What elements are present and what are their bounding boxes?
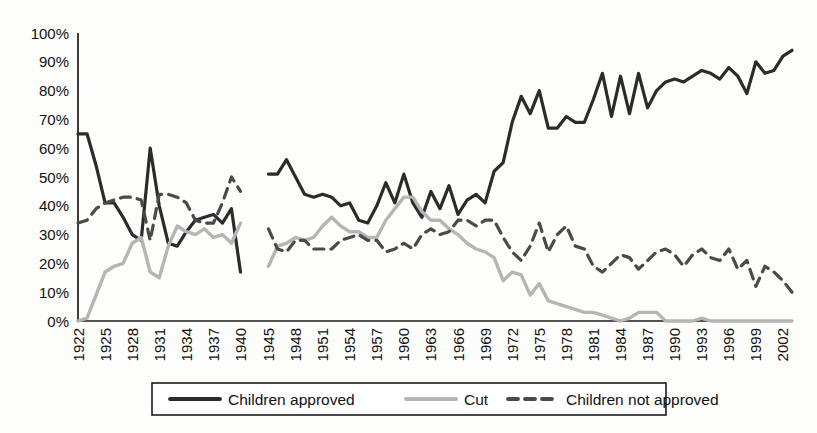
- y-tick-label: 30%: [39, 226, 69, 243]
- y-tick-label: 80%: [39, 82, 69, 99]
- y-tick-label: 0%: [47, 313, 69, 330]
- x-tick-label: 1945: [260, 328, 277, 361]
- x-tick-label: 1984: [612, 328, 629, 361]
- x-tick-label: 1957: [368, 328, 385, 361]
- x-tick-label: 1975: [531, 328, 548, 361]
- x-tick-label: 1934: [178, 328, 195, 361]
- x-tick-label: 1960: [395, 328, 412, 361]
- x-tick-label: 1972: [504, 328, 521, 361]
- x-tick-label: 1966: [450, 328, 467, 361]
- chart-container: 0%10%20%30%40%50%60%70%80%90%100% 192219…: [0, 0, 817, 433]
- x-tick-label: 1990: [666, 328, 683, 361]
- series-line-segment: [268, 50, 792, 223]
- chart-legend: Children approvedCutChildren not approve…: [152, 383, 719, 415]
- x-tick-label: 1963: [422, 328, 439, 361]
- x-tick-label: 1978: [558, 328, 575, 361]
- x-tick-label: 2002: [774, 328, 791, 361]
- x-tick-label: 1951: [314, 328, 331, 361]
- x-tick-label: 1948: [287, 328, 304, 361]
- x-tick-label: 1993: [693, 328, 710, 361]
- x-tick-label: 1996: [720, 328, 737, 361]
- x-tick-label: 1931: [151, 328, 168, 361]
- series-1: [78, 197, 792, 321]
- x-tick-label: 1969: [477, 328, 494, 361]
- series-0: [78, 50, 792, 272]
- x-tick-label: 1987: [639, 328, 656, 361]
- x-tick-label: 1925: [97, 328, 114, 361]
- legend-label-2: Children not approved: [566, 391, 719, 408]
- y-tick-label: 70%: [39, 111, 69, 128]
- y-tick-label: 50%: [39, 169, 69, 186]
- x-tick-label: 1937: [205, 328, 222, 361]
- series-line-segment: [78, 134, 240, 272]
- line-chart: 0%10%20%30%40%50%60%70%80%90%100% 192219…: [0, 0, 817, 433]
- y-tick-label: 10%: [39, 284, 69, 301]
- plot-series-group: [78, 50, 792, 321]
- y-tick-label: 100%: [31, 25, 69, 42]
- x-tick-label: 1940: [232, 328, 249, 361]
- series-line-segment: [78, 223, 240, 321]
- legend-label-1: Cut: [464, 391, 489, 408]
- legend-label-0: Children approved: [228, 391, 355, 408]
- x-tick-label: 1922: [70, 328, 87, 361]
- x-tick-label: 1981: [585, 328, 602, 361]
- x-tick-label: 1954: [341, 328, 358, 361]
- x-tick-label: 1999: [747, 328, 764, 361]
- y-tick-label: 20%: [39, 255, 69, 272]
- x-tick-label: 1928: [124, 328, 141, 361]
- x-axis-tick-labels: 1922192519281931193419371940194519481951…: [70, 328, 792, 361]
- y-tick-label: 60%: [39, 140, 69, 157]
- y-tick-label: 90%: [39, 53, 69, 70]
- plot-axes: [78, 33, 792, 321]
- axis-lines: [78, 33, 792, 321]
- y-axis-tick-labels: 0%10%20%30%40%50%60%70%80%90%100%: [31, 25, 69, 330]
- y-tick-label: 40%: [39, 197, 69, 214]
